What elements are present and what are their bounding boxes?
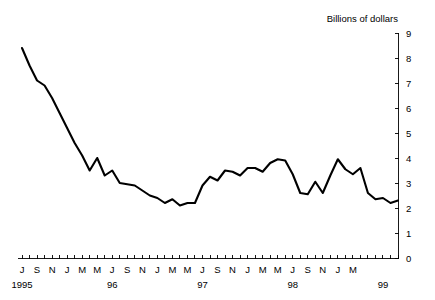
y-axis-tick-label: 1: [406, 228, 411, 239]
x-axis-tick-label: M: [349, 264, 357, 275]
chart-axis-title: Billions of dollars: [327, 13, 399, 24]
y-axis-tick-labels: 0123456789: [406, 28, 411, 264]
y-axis-tick-label: 4: [406, 153, 411, 164]
x-axis-tick-label: M: [259, 264, 267, 275]
x-axis-tick-label: N: [229, 264, 236, 275]
x-axis-tick-label: S: [124, 264, 130, 275]
x-axis-tick-label: M: [93, 264, 101, 275]
x-axis-tick-label: J: [20, 264, 25, 275]
x-axis-tick-label: M: [183, 264, 191, 275]
y-axis-tick-label: 6: [406, 103, 411, 114]
x-axis-tick-label: S: [34, 264, 40, 275]
x-axis-tick-labels: JSNJMMJSNJMMJSNJMMJSNJM: [20, 264, 357, 275]
y-axis-tick-label: 2: [406, 203, 411, 214]
line-chart: Billions of dollars 0123456789 JSNJMMJSN…: [0, 0, 435, 300]
x-axis-tick-label: M: [274, 264, 282, 275]
x-axis-tick-label: N: [139, 264, 146, 275]
y-axis-ticks: [395, 34, 399, 259]
y-axis-tick-label: 5: [406, 128, 411, 139]
x-axis-tick-label: N: [49, 264, 56, 275]
x-axis-tick-label: S: [214, 264, 220, 275]
y-axis-tick-label: 7: [406, 78, 411, 89]
x-axis: JSNJMMJSNJMMJSNJMMJSNJM 199596979899: [11, 255, 399, 291]
x-axis-tick-label: M: [168, 264, 176, 275]
x-axis-ticks: [22, 255, 398, 259]
x-axis-year-label: 1995: [11, 279, 32, 290]
x-axis-tick-label: M: [78, 264, 86, 275]
x-axis-year-label: 96: [107, 279, 118, 290]
x-axis-tick-label: N: [319, 264, 326, 275]
x-axis-year-label: 98: [287, 279, 298, 290]
x-axis-tick-label: J: [110, 264, 115, 275]
x-axis-tick-label: J: [290, 264, 295, 275]
y-axis: 0123456789: [395, 28, 412, 264]
y-axis-tick-label: 9: [406, 28, 411, 39]
x-axis-tick-label: J: [335, 264, 340, 275]
x-axis-year-label: 99: [378, 279, 389, 290]
x-axis-tick-label: J: [245, 264, 250, 275]
y-axis-tick-label: 0: [406, 253, 411, 264]
chart-container: Billions of dollars 0123456789 JSNJMMJSN…: [0, 0, 435, 300]
x-axis-year-label: 97: [197, 279, 208, 290]
y-axis-tick-label: 3: [406, 178, 411, 189]
x-axis-tick-label: J: [65, 264, 70, 275]
x-axis-tick-label: S: [305, 264, 311, 275]
x-axis-tick-label: J: [155, 264, 160, 275]
x-axis-year-labels: 199596979899: [11, 279, 388, 290]
data-series-line: [22, 48, 398, 206]
x-axis-tick-label: J: [200, 264, 205, 275]
y-axis-tick-label: 8: [406, 53, 411, 64]
